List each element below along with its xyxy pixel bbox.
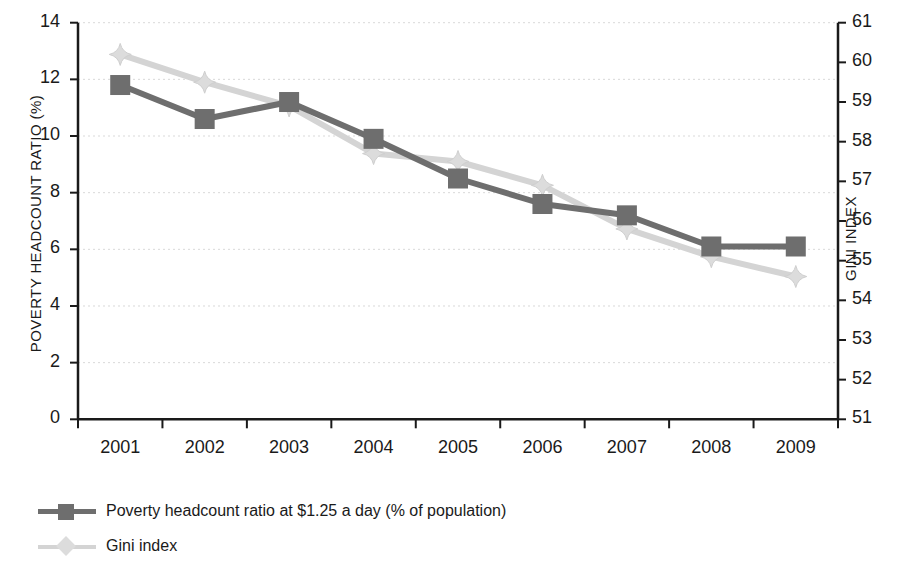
- x-axis-tick-2005: 2005: [418, 437, 498, 458]
- right-axis-tick-60: 60: [852, 50, 892, 71]
- x-axis-tick-2006: 2006: [502, 437, 582, 458]
- right-axis-tick-57: 57: [852, 169, 892, 190]
- left-axis: [70, 23, 78, 420]
- x-axis: [78, 419, 838, 428]
- legend-label-poverty: Poverty headcount ratio at $1.25 a day (…: [106, 503, 506, 519]
- x-axis-tick-2004: 2004: [334, 437, 414, 458]
- legend-swatch-gini: [38, 535, 96, 557]
- gridlines: [78, 23, 838, 363]
- right-axis-tick-61: 61: [852, 11, 892, 32]
- left-axis-tick-0: 0: [20, 407, 60, 428]
- legend-item-gini: Gini index: [38, 535, 177, 557]
- left-axis-tick-10: 10: [20, 124, 60, 145]
- x-axis-tick-2001: 2001: [80, 437, 160, 458]
- right-axis-tick-59: 59: [852, 90, 892, 111]
- x-axis-tick-2008: 2008: [671, 437, 751, 458]
- right-axis-tick-51: 51: [852, 407, 892, 428]
- legend-marker-square: [58, 504, 74, 520]
- x-axis-tick-2003: 2003: [249, 437, 329, 458]
- left-axis-tick-12: 12: [20, 67, 60, 88]
- left-axis-tick-2: 2: [20, 351, 60, 372]
- left-axis-tick-6: 6: [20, 237, 60, 258]
- x-axis-tick-2009: 2009: [756, 437, 836, 458]
- x-axis-tick-2002: 2002: [165, 437, 245, 458]
- legend-swatch-poverty: [38, 500, 96, 522]
- right-axis-tick-56: 56: [852, 209, 892, 230]
- right-axis-tick-53: 53: [852, 328, 892, 349]
- legend-item-poverty: Poverty headcount ratio at $1.25 a day (…: [38, 500, 506, 522]
- x-axis-tick-2007: 2007: [587, 437, 667, 458]
- chart-figure: POVERTY HEADCOUNT RATIO (%) GINI INDEX 1…: [0, 0, 908, 563]
- left-axis-tick-8: 8: [20, 181, 60, 202]
- legend-marker-diamond: [56, 536, 76, 556]
- right-axis-tick-58: 58: [852, 130, 892, 151]
- right-axis-tick-55: 55: [852, 249, 892, 270]
- legend-label-gini: Gini index: [106, 538, 177, 554]
- right-axis-tick-52: 52: [852, 368, 892, 389]
- chart-plot-area: [0, 0, 908, 563]
- right-axis-tick-54: 54: [852, 288, 892, 309]
- left-axis-tick-4: 4: [20, 294, 60, 315]
- left-axis-tick-14: 14: [20, 11, 60, 32]
